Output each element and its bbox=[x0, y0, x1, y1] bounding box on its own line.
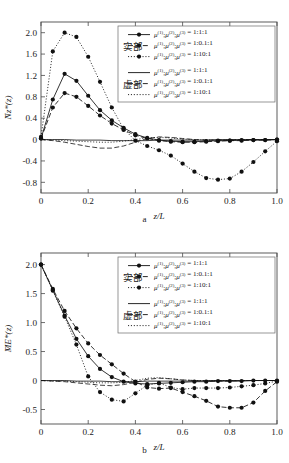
series-marker bbox=[169, 385, 173, 389]
series-marker bbox=[216, 405, 220, 409]
y-tick-label: 1.6 bbox=[26, 49, 38, 59]
series-marker bbox=[86, 94, 90, 98]
series-marker bbox=[228, 406, 232, 410]
series-marker bbox=[240, 406, 244, 410]
series-marker bbox=[251, 138, 255, 142]
series-marker bbox=[192, 170, 196, 174]
series-marker bbox=[181, 140, 185, 144]
x-tick-label: 0.8 bbox=[224, 196, 236, 206]
series-marker bbox=[39, 135, 43, 139]
series-marker bbox=[181, 387, 185, 391]
series-marker bbox=[157, 148, 161, 152]
y-tick-label: 1.5 bbox=[26, 289, 38, 299]
y-tick-label: 2.0 bbox=[26, 28, 38, 38]
series-marker bbox=[63, 31, 67, 35]
series-marker bbox=[192, 394, 196, 398]
series-marker bbox=[86, 354, 90, 358]
series-marker bbox=[74, 79, 78, 83]
x-tick-label: 0.6 bbox=[177, 427, 189, 437]
x-tick-label: 0 bbox=[39, 196, 44, 206]
x-tick-label: 0.2 bbox=[82, 427, 94, 437]
legend-entry-label: μ(1);μ(2);μ(3) = 1:1:1 bbox=[154, 28, 208, 39]
series-marker bbox=[63, 72, 67, 76]
series-marker bbox=[157, 139, 161, 143]
x-tick-label: 0.6 bbox=[177, 196, 189, 206]
y-tick-label: 0.4 bbox=[26, 113, 38, 123]
y-tick-label: 1.2 bbox=[26, 71, 38, 81]
y-axis-label: N̄z*(z) bbox=[3, 96, 13, 121]
legend-entry-label: μ(1);μ(2);μ(3) = 1:0.1:1 bbox=[154, 308, 213, 319]
series-marker bbox=[74, 326, 78, 330]
series-marker bbox=[98, 80, 102, 84]
series-marker bbox=[251, 383, 255, 387]
chart-a-svg: 00.20.40.60.81.0-0.8-0.400.40.81.21.62.0… bbox=[0, 0, 289, 232]
series-marker bbox=[192, 140, 196, 144]
series-marker bbox=[39, 262, 43, 266]
series-marker bbox=[216, 178, 220, 182]
series-line bbox=[41, 93, 277, 142]
series-marker bbox=[228, 176, 232, 180]
series-marker bbox=[251, 400, 255, 404]
series-marker bbox=[145, 383, 149, 387]
series-marker bbox=[122, 371, 126, 375]
legend-entry-label: μ(1);μ(2);μ(3) = 1:0.1:1 bbox=[154, 270, 213, 281]
figure-container: 00.20.40.60.81.0-0.8-0.400.40.81.21.62.0… bbox=[0, 0, 289, 463]
legend-entry-label: μ(1);μ(2);μ(3) = 1:10:1 bbox=[154, 50, 212, 61]
series-marker bbox=[63, 309, 67, 313]
panel-b-caption: b bbox=[0, 445, 289, 455]
y-tick-label: -0.4 bbox=[22, 156, 37, 166]
series-marker bbox=[74, 342, 78, 346]
series-marker bbox=[133, 391, 137, 395]
series-marker bbox=[86, 341, 90, 345]
legend-group-real-label: 实部 bbox=[123, 272, 143, 283]
y-tick-label: 2.0 bbox=[26, 260, 38, 270]
y-axis-label: M̄E*(z) bbox=[3, 325, 13, 354]
legend-entry-label: μ(1);μ(2);μ(3) = 1:0.1:1 bbox=[154, 39, 213, 50]
series-marker bbox=[74, 35, 78, 39]
series-marker bbox=[86, 55, 90, 59]
panel-a-caption: a bbox=[0, 214, 289, 224]
legend-entry-label: μ(1);μ(2);μ(3) = 1:1:1 bbox=[154, 259, 208, 270]
series-marker bbox=[122, 127, 126, 131]
series-marker bbox=[263, 149, 267, 153]
series-marker bbox=[204, 386, 208, 390]
series-marker bbox=[204, 176, 208, 180]
series-marker bbox=[110, 362, 114, 366]
legend-entry-label: μ(1);μ(2);μ(3) = 1:1:1 bbox=[154, 297, 208, 308]
y-tick-label: -0.8 bbox=[22, 178, 37, 188]
series-marker bbox=[98, 353, 102, 357]
series-marker bbox=[251, 160, 255, 164]
legend-group-imag-label: 虚部 bbox=[123, 79, 143, 90]
series-marker bbox=[74, 337, 78, 341]
legend-entry-label: μ(1);μ(2);μ(3) = 1:10:1 bbox=[154, 281, 212, 292]
legend-entry-label: μ(1);μ(2);μ(3) = 1:0.1:1 bbox=[154, 77, 213, 88]
y-tick-label: 0.8 bbox=[26, 92, 38, 102]
x-tick-label: 0.4 bbox=[130, 196, 142, 206]
chart-panel-b: 00.20.40.60.81.0-0.500.51.01.52.0z/LM̄E*… bbox=[0, 231, 289, 463]
series-marker bbox=[228, 385, 232, 389]
series-marker bbox=[51, 105, 55, 109]
series-marker bbox=[122, 399, 126, 403]
y-tick-label: 0.5 bbox=[26, 347, 38, 357]
series-marker bbox=[74, 95, 78, 99]
series-marker bbox=[275, 379, 279, 383]
series-marker bbox=[240, 384, 244, 388]
series-marker bbox=[240, 379, 244, 383]
series-marker bbox=[86, 374, 90, 378]
legend-sample-marker bbox=[137, 264, 141, 268]
series-marker bbox=[169, 153, 173, 157]
series-marker bbox=[133, 133, 137, 137]
legend-sample-marker bbox=[137, 33, 141, 37]
legend-sample-marker bbox=[137, 286, 141, 290]
x-tick-label: 0.4 bbox=[130, 427, 142, 437]
x-tick-label: 1.0 bbox=[271, 196, 283, 206]
series-marker bbox=[263, 138, 267, 142]
series-marker bbox=[240, 170, 244, 174]
y-tick-label: 0 bbox=[32, 135, 37, 145]
series-marker bbox=[181, 162, 185, 166]
x-tick-label: 0.2 bbox=[82, 196, 94, 206]
series-marker bbox=[98, 113, 102, 117]
series-marker bbox=[204, 399, 208, 403]
series-marker bbox=[192, 386, 196, 390]
series-marker bbox=[216, 386, 220, 390]
